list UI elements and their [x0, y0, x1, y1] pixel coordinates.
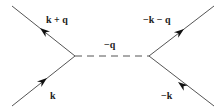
- label-top-right: −k − q: [143, 14, 171, 25]
- feynman-diagram: k + q k −q −k − q −k: [0, 0, 223, 111]
- label-bottom-left: k: [50, 90, 56, 101]
- arrow-icon-top-right: [174, 26, 186, 38]
- label-top-left: k + q: [46, 14, 68, 25]
- fermion-line-bottom-right: [149, 56, 214, 106]
- label-bottom-right: −k: [161, 90, 173, 101]
- label-middle: −q: [104, 39, 116, 50]
